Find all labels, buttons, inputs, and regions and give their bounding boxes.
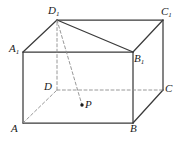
vertex-label-C: C [165, 83, 172, 94]
vertex-label-letter: D [44, 80, 52, 92]
vertex-label-subscript: 1 [168, 11, 172, 19]
vertex-label-subscript: 1 [16, 48, 20, 56]
vertex-label-letter: D [48, 4, 56, 16]
figure-canvas [0, 0, 185, 141]
edge-A-D [23, 90, 57, 123]
vertex-label-B1: B1 [134, 53, 144, 64]
vertex-label-letter: A [9, 42, 16, 54]
vertex-label-A: A [11, 123, 18, 134]
edge-B-C [133, 90, 163, 123]
vertex-label-letter: B [130, 122, 137, 134]
vertex-label-D1: D1 [48, 5, 59, 16]
segment-D1-P [57, 20, 82, 105]
point-label-letter: P [85, 98, 92, 110]
vertex-label-subscript: 1 [141, 58, 145, 66]
point-marker-P [80, 103, 83, 106]
diagonal-D1-B1 [57, 20, 133, 52]
edge-B1-C1 [133, 20, 163, 52]
vertex-label-A1: A1 [9, 43, 19, 54]
vertex-label-C1: C1 [161, 6, 172, 17]
vertex-label-D: D [44, 81, 52, 92]
geometry-figure: D1C1A1B1DCABP [0, 0, 185, 141]
point-label-P: P [85, 99, 92, 110]
vertex-label-letter: B [134, 52, 141, 64]
construction-lines-layer [57, 20, 133, 105]
vertex-label-B: B [130, 123, 137, 134]
edge-A1-D1 [23, 20, 57, 52]
point-markers-layer [80, 103, 83, 106]
vertex-label-subscript: 1 [56, 10, 60, 18]
vertex-label-letter: A [11, 122, 18, 134]
vertex-label-letter: C [165, 82, 172, 94]
